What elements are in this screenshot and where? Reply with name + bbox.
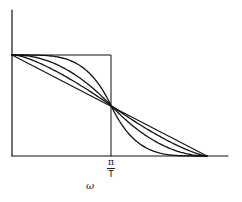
ideal-rectangle-curve xyxy=(12,55,111,156)
filter-response-diagram xyxy=(0,0,242,202)
cutoff-tick-denominator: T xyxy=(106,170,116,179)
x-axis-label: ω xyxy=(86,181,94,191)
linear-rolloff-curve xyxy=(12,55,207,156)
cutoff-tick-numerator: π xyxy=(106,158,116,167)
